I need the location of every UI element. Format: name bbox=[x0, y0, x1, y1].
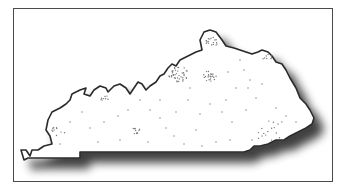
population-dot bbox=[258, 132, 259, 133]
population-dot bbox=[53, 129, 54, 130]
population-dot bbox=[59, 143, 60, 144]
population-dot bbox=[159, 117, 160, 118]
population-dot bbox=[195, 129, 196, 130]
population-dot bbox=[266, 55, 267, 56]
population-dot bbox=[258, 138, 259, 139]
population-dot bbox=[101, 98, 102, 99]
population-dot bbox=[119, 139, 120, 140]
population-dot bbox=[60, 131, 61, 132]
population-dot bbox=[215, 76, 216, 77]
population-dot bbox=[264, 57, 265, 58]
population-dot bbox=[183, 72, 184, 73]
population-dot bbox=[249, 79, 250, 80]
population-dot bbox=[212, 76, 213, 77]
population-dot bbox=[243, 69, 244, 70]
population-dot bbox=[64, 132, 65, 133]
population-dot bbox=[52, 131, 53, 132]
population-dot bbox=[251, 139, 252, 140]
population-dot bbox=[216, 42, 217, 43]
population-dot bbox=[206, 40, 207, 41]
population-dot bbox=[103, 121, 104, 122]
population-dot bbox=[117, 115, 118, 116]
population-dot bbox=[178, 75, 179, 76]
population-dot bbox=[225, 99, 226, 100]
population-dot bbox=[209, 103, 210, 104]
population-dot bbox=[139, 99, 140, 100]
population-dot bbox=[172, 70, 173, 71]
population-dot bbox=[215, 44, 216, 45]
population-dot bbox=[204, 77, 205, 78]
population-dot bbox=[203, 74, 204, 75]
population-dot bbox=[261, 83, 262, 84]
population-dot bbox=[212, 74, 213, 75]
population-dot bbox=[189, 87, 190, 88]
population-dot bbox=[215, 141, 216, 142]
population-dot bbox=[263, 133, 264, 134]
population-dot bbox=[105, 98, 106, 99]
population-dot bbox=[168, 75, 169, 76]
population-dot bbox=[208, 41, 209, 42]
population-dot bbox=[271, 128, 272, 129]
population-dot bbox=[138, 130, 139, 131]
population-dot bbox=[255, 97, 256, 98]
population-dot bbox=[165, 127, 166, 128]
population-dot bbox=[187, 99, 188, 100]
population-dot bbox=[171, 75, 172, 76]
population-dot bbox=[182, 80, 183, 81]
population-dot bbox=[221, 111, 222, 112]
population-dot bbox=[208, 38, 209, 39]
population-dot bbox=[261, 128, 262, 129]
population-dot bbox=[206, 71, 207, 72]
population-dot bbox=[261, 135, 262, 136]
population-dot bbox=[56, 135, 57, 136]
population-dot bbox=[174, 74, 175, 75]
population-dot bbox=[270, 58, 271, 59]
population-dot bbox=[239, 59, 240, 60]
population-dot bbox=[267, 131, 268, 132]
population-dot bbox=[265, 134, 266, 135]
population-dot bbox=[211, 44, 212, 45]
population-dot bbox=[266, 58, 267, 59]
population-dot bbox=[176, 73, 177, 74]
population-dot bbox=[183, 75, 184, 76]
population-dot bbox=[245, 109, 246, 110]
population-dot bbox=[271, 57, 272, 58]
population-dot bbox=[213, 42, 214, 43]
population-dot bbox=[104, 96, 105, 97]
population-dot bbox=[213, 37, 214, 38]
population-dot bbox=[100, 99, 101, 100]
population-dot bbox=[267, 54, 268, 55]
population-dot bbox=[274, 127, 275, 128]
population-dot bbox=[178, 81, 179, 82]
population-dot bbox=[174, 67, 175, 68]
population-dot bbox=[206, 80, 207, 81]
population-dot bbox=[199, 113, 200, 114]
population-dot bbox=[273, 122, 274, 123]
population-dot bbox=[133, 128, 134, 129]
population-dot bbox=[229, 139, 230, 140]
population-dot bbox=[279, 137, 280, 138]
population-dot bbox=[276, 132, 277, 133]
population-dot bbox=[209, 75, 210, 76]
population-dot bbox=[175, 70, 176, 71]
population-dot bbox=[268, 120, 269, 121]
population-dot bbox=[177, 77, 178, 78]
population-dot bbox=[52, 128, 53, 129]
population-dot bbox=[134, 128, 135, 129]
population-dot bbox=[295, 121, 296, 122]
population-dot bbox=[177, 70, 178, 71]
population-dot bbox=[149, 109, 150, 110]
population-dot bbox=[56, 127, 57, 128]
population-dot bbox=[159, 99, 160, 100]
population-dot bbox=[177, 67, 178, 68]
population-dot bbox=[172, 72, 173, 73]
population-dot bbox=[103, 98, 104, 99]
population-dot bbox=[176, 81, 177, 82]
population-dot bbox=[135, 130, 136, 131]
population-dot bbox=[147, 141, 148, 142]
population-dot bbox=[210, 78, 211, 79]
population-dot bbox=[175, 111, 176, 112]
population-dot bbox=[97, 141, 98, 142]
population-dot bbox=[215, 39, 216, 40]
population-dot bbox=[213, 77, 214, 78]
